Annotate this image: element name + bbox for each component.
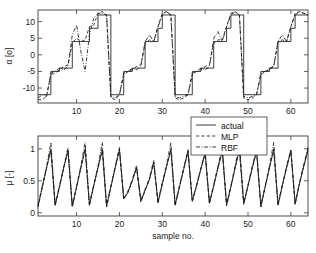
top-panel: -10-50510 102030405060 α [o] [4, 10, 308, 116]
x-axis-label: sample no. [152, 231, 194, 241]
y-tick-label: 5 [30, 33, 35, 43]
top-y-axis-label: α [o] [4, 48, 14, 65]
chart-svg: -10-50510 102030405060 α [o] 00.51 10203… [0, 0, 316, 253]
chart-figure: -10-50510 102030405060 α [o] 00.51 10203… [0, 0, 316, 253]
x-tick-label: 40 [200, 219, 210, 229]
x-tick-label: 20 [115, 106, 125, 116]
y-tick-label: 10 [26, 17, 36, 27]
y-tick-label: 0 [30, 50, 35, 60]
x-tick-label: 60 [286, 219, 296, 229]
x-tick-label: 50 [243, 106, 253, 116]
x-tick-label: 30 [158, 219, 168, 229]
x-tick-label: 10 [72, 106, 82, 116]
top-y-ticklabels: -10-50510 [23, 17, 36, 93]
legend: actual MLP RBF [191, 117, 267, 155]
y-tick-label: 1 [30, 144, 35, 154]
bottom-y-axis-label: μ [-] [4, 171, 14, 186]
bottom-series-actual [38, 149, 308, 206]
legend-label-mlp: MLP [221, 132, 239, 142]
x-tick-label: 10 [72, 219, 82, 229]
top-series-actual [38, 15, 308, 95]
y-tick-label: 0 [30, 208, 35, 218]
y-tick-label: -5 [27, 66, 35, 76]
x-tick-label: 40 [200, 106, 210, 116]
bottom-x-ticklabels: 102030405060 [72, 219, 296, 229]
top-x-ticklabels: 102030405060 [72, 106, 296, 116]
bottom-y-ticklabels: 00.51 [23, 144, 35, 218]
y-tick-label: -10 [23, 83, 36, 93]
top-series-mlp [38, 12, 308, 100]
x-tick-label: 20 [115, 219, 125, 229]
x-tick-label: 50 [243, 219, 253, 229]
top-series-rbf [38, 12, 308, 98]
legend-label-actual: actual [221, 121, 244, 131]
top-y-ticks [38, 22, 308, 88]
y-tick-label: 0.5 [23, 176, 35, 186]
legend-label-rbf: RBF [221, 143, 238, 153]
x-tick-label: 30 [158, 106, 168, 116]
x-tick-label: 60 [286, 106, 296, 116]
